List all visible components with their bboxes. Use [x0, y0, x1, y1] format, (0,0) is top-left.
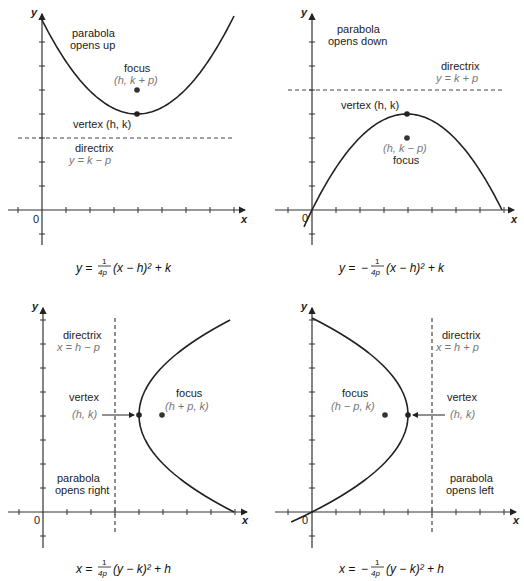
equation-numerator: 1: [102, 257, 107, 266]
parabola-curve: [139, 320, 234, 512]
focus-coords: (h − p, k): [331, 400, 375, 412]
ticks: [19, 320, 235, 536]
title-line-1: parabola: [450, 472, 494, 484]
origin-label: 0: [34, 514, 40, 526]
focus-point: [134, 87, 140, 93]
y-axis-label: y: [300, 300, 308, 312]
y-axis-label: y: [30, 6, 38, 18]
focus-label: focus: [176, 387, 203, 399]
panel-opens-right: directrix x = h − p vertex (h, k) focus …: [8, 300, 249, 578]
equation-sign: −: [361, 562, 368, 576]
equation-lhs: x =: [338, 562, 355, 576]
directrix-equation: x = h − p: [56, 341, 100, 353]
vertex-point: [136, 412, 142, 418]
equation-numerator: 1: [375, 558, 380, 567]
focus-point: [159, 412, 165, 418]
focus-coords: (h, k + p): [114, 74, 158, 86]
title-line-1: parabola: [57, 472, 101, 484]
directrix-equation: y = k − p: [68, 154, 111, 166]
equation-numerator: 1: [102, 558, 107, 567]
vertex-label: vertex: [447, 391, 477, 403]
directrix-label: directrix: [75, 142, 114, 154]
equation-denominator: 4p: [371, 268, 380, 277]
x-axis-label: x: [512, 514, 520, 526]
equation-denominator: 4p: [371, 569, 380, 578]
x-axis-label: x: [241, 514, 249, 526]
title-line-2: opens left: [446, 484, 494, 496]
focus-point: [404, 135, 410, 141]
equation-sign: −: [361, 261, 368, 275]
directrix-label: directrix: [442, 329, 481, 341]
y-axis-label: y: [31, 300, 39, 312]
x-axis-label: x: [240, 213, 248, 225]
equation: x = 1 4p (y − k)² + h: [75, 558, 171, 578]
title-line-2: opens up: [70, 39, 115, 51]
parabola-curve: [291, 318, 408, 522]
vertex-label: vertex: [69, 391, 99, 403]
focus-coords: (h, k − p): [383, 142, 427, 154]
directrix-label: directrix: [63, 329, 102, 341]
vertex-point: [404, 111, 410, 117]
equation-rest: (y − k)² + h: [113, 562, 171, 576]
x-axis-label: x: [510, 213, 518, 225]
equation: y = − 1 4p (x − h)² + k: [338, 257, 445, 277]
title-line-1: parabola: [337, 23, 381, 35]
vertex-coords: (h, k): [450, 408, 475, 420]
directrix-equation: x = h + p: [435, 341, 479, 353]
vertex-coords: (h, k): [72, 408, 97, 420]
panel-opens-left: directrix x = h + p focus (h − p, k) ver…: [275, 300, 520, 578]
equation-rest: (y − k)² + h: [386, 562, 444, 576]
equation-lhs: y =: [338, 261, 355, 275]
parabola-diagram: parabola opens up focus (h, k + p) verte…: [0, 0, 524, 581]
origin-label: 0: [302, 514, 308, 526]
equation-numerator: 1: [375, 257, 380, 266]
focus-coords: (h + p, k): [165, 400, 209, 412]
focus-point: [382, 412, 388, 418]
vertex-label: vertex (h, k): [73, 118, 131, 130]
vertex-point: [134, 111, 140, 117]
equation-rest: (x − h)² + k: [113, 261, 172, 275]
focus-label: focus: [124, 62, 151, 74]
panel-opens-up: parabola opens up focus (h, k + p) verte…: [8, 6, 248, 277]
title-line-2: opens right: [55, 484, 109, 496]
equation: x = − 1 4p (y − k)² + h: [338, 558, 444, 578]
axes: [275, 14, 514, 245]
directrix-equation: y = k + p: [435, 72, 478, 84]
equation-lhs: x =: [75, 562, 92, 576]
equation: y = 1 4p (x − h)² + k: [75, 257, 172, 277]
vertex-point: [405, 412, 411, 418]
vertex-label: vertex (h, k): [341, 99, 399, 111]
equation-denominator: 4p: [98, 569, 107, 578]
equation-denominator: 4p: [98, 268, 107, 277]
y-axis-label: y: [300, 6, 308, 18]
panel-opens-down: parabola opens down directrix y = k + p …: [275, 6, 518, 277]
directrix-label: directrix: [441, 60, 480, 72]
title-line-1: parabola: [72, 27, 116, 39]
equation-lhs: y =: [75, 261, 92, 275]
focus-label: focus: [393, 154, 420, 166]
focus-label: focus: [342, 387, 369, 399]
origin-label: 0: [33, 213, 39, 225]
origin-label: 0: [302, 212, 308, 224]
title-line-2: opens down: [328, 35, 387, 47]
equation-rest: (x − h)² + k: [386, 261, 445, 275]
